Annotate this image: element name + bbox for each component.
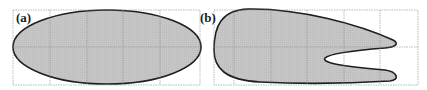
- panel-a: (a): [13, 10, 201, 85]
- panel-b-label: (b): [200, 10, 216, 25]
- panel-a-label: (a): [16, 10, 31, 25]
- shape-b-fork: [214, 9, 396, 83]
- figure: (a) (b): [0, 0, 427, 90]
- panel-b: (b): [200, 9, 418, 85]
